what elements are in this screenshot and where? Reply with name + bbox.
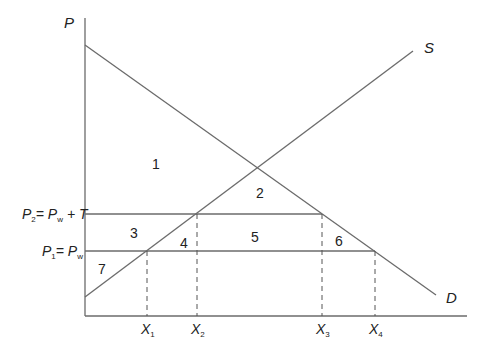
x2-label: X2 [191, 322, 205, 339]
region-7-label: 7 [98, 262, 106, 276]
y-axis-label: P [64, 15, 74, 30]
region-5-label: 5 [251, 230, 259, 244]
region-2-label: 2 [256, 186, 264, 200]
region-1-label: 1 [152, 157, 160, 171]
region-6-label: 6 [335, 234, 343, 248]
diagram-canvas [0, 0, 487, 349]
x1-label: X1 [141, 322, 155, 339]
demand-label: D [446, 290, 457, 305]
supply-label: S [424, 40, 434, 55]
region-4-label: 4 [180, 236, 188, 250]
supply-curve [85, 51, 413, 297]
p1-label: P1= Pw [42, 244, 83, 261]
p2-label: P2= Pw + T [22, 207, 88, 224]
x3-label: X3 [316, 322, 330, 339]
x4-label: X4 [369, 322, 383, 339]
region-3-label: 3 [130, 226, 138, 240]
